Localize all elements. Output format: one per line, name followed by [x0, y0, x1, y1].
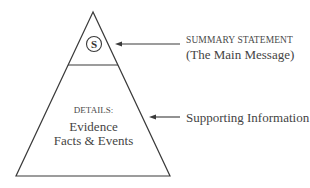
details-heading: DETAILS: [70, 106, 117, 115]
supporting-arrow-icon [149, 115, 180, 120]
main-message-label: (The Main Message) [186, 48, 294, 61]
summary-symbol: S [88, 39, 100, 50]
details-evidence: Evidence [55, 120, 132, 133]
pyramid-diagram [0, 0, 310, 188]
summary-arrow-icon [115, 42, 180, 47]
summary-statement-label: SUMMARY STATEMENT [186, 36, 293, 46]
details-facts-events: Facts & Events [50, 134, 137, 147]
supporting-information-label: Supporting Information [186, 111, 309, 124]
